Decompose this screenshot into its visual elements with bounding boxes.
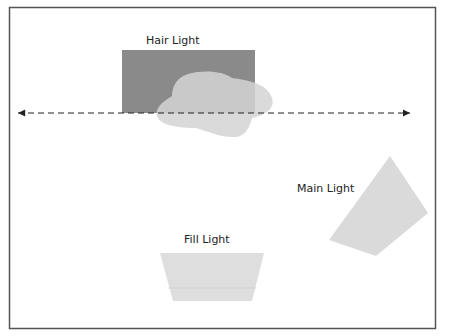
hair-light-label: Hair Light	[146, 34, 200, 47]
fill-light-label: Fill Light	[184, 233, 230, 246]
main-light-label: Main Light	[297, 182, 355, 195]
fill-light-panel	[160, 253, 264, 301]
lighting-diagram: Hair Light Main Light Fill Light	[0, 0, 450, 336]
